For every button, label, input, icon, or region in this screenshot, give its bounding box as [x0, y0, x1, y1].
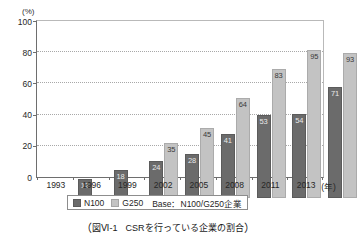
caption-figure-number: 図Ⅵ-1	[92, 223, 117, 233]
bar-value-n100-1999: 24	[150, 163, 162, 172]
y-tick-label-100: 100	[0, 18, 32, 27]
y-tick-label-60: 60	[0, 80, 32, 89]
x-axis-tick-labels: (年) 19931996199920022005200820112013	[36, 180, 324, 194]
plot-area: 1218243528454164538354957193	[36, 20, 324, 178]
x-tick-label-2002: 2002	[148, 180, 178, 190]
bar-value-n100-2008: 53	[258, 117, 270, 126]
legend-item-g250: G250	[111, 198, 143, 208]
legend-swatch-n100	[73, 199, 81, 207]
bar-value-n100-2002: 28	[186, 156, 198, 165]
bar-g250-2008: 83	[272, 69, 286, 198]
bar-value-g250-2005: 64	[237, 100, 249, 109]
y-tick-label-80: 80	[0, 49, 32, 58]
x-tick-label-2008: 2008	[220, 180, 250, 190]
legend-item-n100: N100	[73, 198, 104, 208]
y-axis-unit-label: (%)	[22, 7, 34, 16]
bar-value-n100-2011: 54	[293, 116, 305, 125]
bar-group-1993: 12	[78, 42, 108, 198]
bar-g250-2013: 93	[343, 53, 357, 198]
bar-group-2005: 4164	[221, 42, 251, 198]
bar-value-g250-2011: 95	[308, 52, 320, 61]
bar-group-2008: 5383	[257, 42, 287, 198]
x-tick-label-1999: 1999	[112, 180, 142, 190]
bar-value-g250-2013: 93	[344, 55, 356, 64]
bar-value-g250-2008: 83	[273, 71, 285, 80]
x-tick-label-2005: 2005	[184, 180, 214, 190]
caption-close-paren: ）	[244, 222, 255, 234]
bar-group-1999: 2435	[149, 42, 179, 198]
x-tick-mark-1993	[37, 177, 38, 180]
bar-value-g250-2002: 45	[201, 130, 213, 139]
x-tick-mark-2008	[216, 177, 217, 180]
x-tick-label-1996: 1996	[77, 180, 107, 190]
bar-value-n100-2005: 41	[222, 136, 234, 145]
bar-group-2002: 2845	[185, 42, 215, 198]
chart-legend: N100 G250 Base：N100/G250企業	[67, 195, 248, 210]
bar-group-1996: 18	[114, 42, 144, 198]
y-axis-tick-labels: 020406080100	[0, 20, 34, 178]
bar-group-2011: 5495	[292, 42, 322, 198]
caption-open-paren: （	[81, 222, 92, 234]
x-tick-label-2011: 2011	[255, 180, 285, 190]
bars-layer: 1218243528454164538354957193	[74, 42, 360, 198]
x-tick-mark-2013	[287, 177, 288, 180]
x-tick-mark-1999	[109, 177, 110, 180]
caption-text: CSRを行っている企業の割合	[126, 223, 244, 233]
bar-value-g250-1999: 35	[165, 145, 177, 154]
y-tick-label-40: 40	[0, 111, 32, 120]
figure-caption: （図Ⅵ-1CSRを行っている企業の割合）	[0, 219, 336, 235]
bar-group-2013: 7193	[328, 42, 358, 198]
x-tick-mark-2011	[252, 177, 253, 180]
bar-value-n100-2013: 71	[329, 89, 341, 98]
bar-g250-2011: 95	[307, 50, 321, 198]
legend-swatch-g250	[111, 199, 119, 207]
x-tick-mark-2002	[144, 177, 145, 180]
x-tick-mark-1996	[73, 177, 74, 180]
legend-label-g250: G250	[122, 198, 143, 208]
y-tick-label-20: 20	[0, 142, 32, 151]
x-tick-label-1993: 1993	[41, 180, 71, 190]
legend-base-note: Base：N100/G250企業	[152, 197, 242, 209]
y-tick-label-0: 0	[0, 174, 32, 183]
legend-label-n100: N100	[84, 198, 104, 208]
x-axis-unit-label: (年)	[321, 180, 336, 192]
x-tick-label-2013: 2013	[291, 180, 321, 190]
x-tick-mark-end	[322, 177, 323, 180]
x-tick-mark-2005	[180, 177, 181, 180]
